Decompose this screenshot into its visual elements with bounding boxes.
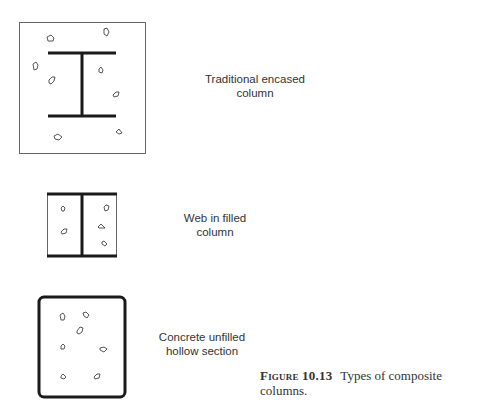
label-line: column [165,225,265,239]
label-web-in-filled: Web in filled column [165,211,265,239]
web-in-filled-section [47,194,117,256]
label-line: Concrete unfilled [152,330,252,344]
concrete-hollow-section [39,297,125,397]
aggregate-particles [60,312,107,379]
steel-tube-outline [39,297,125,397]
aggregate-particles [33,28,122,140]
label-line: hollow section [152,344,252,358]
label-traditional-encased: Traditional encased column [190,72,320,100]
steel-i-section [48,53,116,116]
label-line: Traditional encased [190,72,320,86]
figure-number: Figure 10.13 [260,368,332,383]
steel-h-section [47,194,117,256]
label-line: column [190,86,320,100]
figure-caption: Figure 10.13Types of composite columns. [260,368,475,398]
aggregate-particles [61,205,109,246]
label-line: Web in filled [165,211,265,225]
label-concrete-unfilled: Concrete unfilled hollow section [152,330,252,358]
traditional-encased-section [20,23,146,154]
